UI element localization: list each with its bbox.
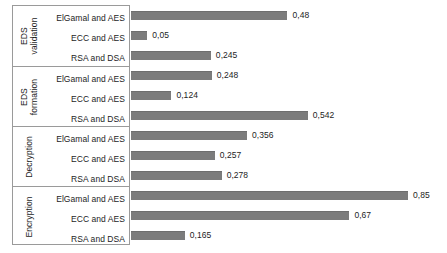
group-block-encryption: EncryptionElGamal and AESECC and AESRSA … [13,186,129,246]
bar-value-label: 0,165 [190,230,212,240]
category-label: ElGamal and AES [45,8,125,28]
bar [131,211,349,220]
bar-value-label: 0,257 [220,150,242,160]
group-label: Encryption [24,196,34,237]
category-label: ECC and AES [45,149,125,169]
group-label-line: EDS [19,88,29,106]
bar [131,131,247,140]
bar [131,231,185,240]
bar [131,31,147,40]
group-block-eds-formation: EDSformationElGamal and AESECC and AESRS… [13,66,129,126]
bar [131,71,212,80]
group-label-line: Decryption [24,136,34,178]
group-label-cell: EDSformation [13,67,45,126]
group-label-line: validation [29,18,39,55]
bar-row: 0,48 [131,5,309,25]
category-label-list: ElGamal and AESECC and AESRSA and DSA [45,6,129,66]
bar-value-label: 0,542 [313,110,335,120]
bar-value-label: 0,245 [216,50,238,60]
group-label: EDSformation [19,78,39,114]
bar [131,111,308,120]
category-label: ElGamal and AES [45,69,125,89]
bar [131,91,171,100]
group-block-decryption: DecryptionElGamal and AESECC and AESRSA … [13,126,129,186]
bar-value-label: 0,85 [413,190,430,200]
bar [131,151,215,160]
category-label: ElGamal and AES [45,129,125,149]
bar-value-label: 0,05 [152,30,169,40]
category-label-list: ElGamal and AESECC and AESRSA and DSA [45,127,129,186]
group-label-cell: Encryption [13,187,45,246]
bar [131,171,222,180]
bar-row: 0,85 [131,185,430,205]
horizontal-bar-chart: 0,480,050,2450,2480,1240,5420,3560,2570,… [0,0,447,253]
category-label-list: ElGamal and AESECC and AESRSA and DSA [45,67,129,126]
category-label: ECC and AES [45,28,125,48]
bar-row: 0,05 [131,25,169,45]
group-label: Decryption [24,136,34,178]
category-label: ECC and AES [45,89,125,109]
group-label-line: formation [29,78,39,114]
bar [131,11,287,20]
group-label: EDSvalidation [19,18,39,55]
group-block-eds-validation: EDSvalidationElGamal and AESECC and AESR… [13,6,129,66]
bar-row: 0,356 [131,125,274,145]
bar [131,51,211,60]
category-label: RSA and DSA [45,48,125,68]
bar-row: 0,542 [131,105,334,125]
bar-row: 0,67 [131,205,371,225]
bar-value-label: 0,278 [227,170,249,180]
bar-row: 0,257 [131,145,241,165]
category-label: ECC and AES [45,209,125,229]
bar-value-label: 0,124 [176,90,198,100]
bar-row: 0,124 [131,85,198,105]
bar-row: 0,245 [131,45,237,65]
group-label-cell: EDSvalidation [13,6,45,66]
axis-label-box: EDSvalidationElGamal and AESECC and AESR… [12,5,130,245]
bar-value-label: 0,48 [292,10,309,20]
group-label-cell: Decryption [13,127,45,186]
group-label-line: EDS [19,27,29,45]
bar-row: 0,165 [131,225,211,245]
bar-value-label: 0,356 [252,130,274,140]
group-label-line: Encryption [24,196,34,237]
bar-value-label: 0,67 [354,210,371,220]
bar [131,191,408,200]
bar-value-label: 0,248 [217,70,239,80]
category-label: ElGamal and AES [45,189,125,209]
category-label-list: ElGamal and AESECC and AESRSA and DSA [45,187,129,246]
category-label: RSA and DSA [45,229,125,249]
bar-row: 0,248 [131,65,238,85]
bar-row: 0,278 [131,165,248,185]
